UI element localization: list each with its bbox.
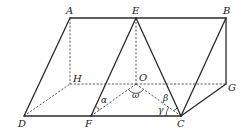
angle-gamma-arc [166, 107, 169, 116]
geometry-diagram: A E B H O G D F C α ω β γ [0, 0, 244, 138]
visible-edges [24, 18, 226, 116]
label-O: O [139, 72, 147, 83]
label-omega: ω [132, 90, 140, 100]
label-alpha: α [101, 95, 107, 105]
angle-beta-arc [174, 108, 178, 111]
label-E: E [131, 5, 140, 16]
edge-C-B [181, 18, 226, 116]
label-C: C [177, 118, 185, 129]
edge-F-E [91, 18, 136, 116]
hidden-edges [24, 18, 226, 116]
label-H: H [72, 73, 82, 84]
edge-E-C [136, 18, 181, 116]
label-D: D [17, 118, 26, 129]
label-G: G [228, 82, 236, 93]
label-F: F [84, 118, 93, 129]
label-beta: β [162, 93, 168, 103]
angle-alpha-arc [96, 106, 100, 110]
label-gamma: γ [158, 105, 164, 115]
label-A: A [65, 5, 73, 16]
edge-D-A [24, 18, 70, 116]
label-B: B [222, 5, 230, 16]
angle-labels: α ω β γ [101, 90, 168, 115]
